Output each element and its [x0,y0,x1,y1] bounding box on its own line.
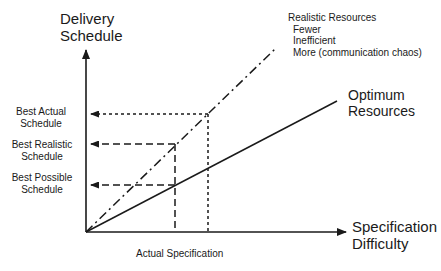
label-line: Best Actual [6,106,76,118]
x-axis-title-line1: Specification [352,218,437,235]
label-line: Schedule [6,151,78,163]
label-line: Schedule [6,118,76,130]
optimum-resources-line [86,101,337,232]
y-axis-title-line2: Schedule [60,27,123,44]
x-axis-title: Specification Difficulty [352,218,437,253]
label-line: Best Realistic [6,139,78,151]
x-axis-title-line2: Difficulty [352,235,437,252]
label-line: Best Possible [6,172,78,184]
actual-specification-label: Actual Specification [136,248,223,260]
realistic-item-inefficient: Inefficient [288,35,422,47]
best-possible-schedule-label: Best Possible Schedule [6,172,78,195]
optimum-line1: Optimum [348,87,415,103]
label-line: Schedule [6,184,78,196]
optimum-line2: Resources [348,103,415,119]
best-actual-schedule-label: Best Actual Schedule [6,106,76,129]
realistic-resources-title: Realistic Resources [288,12,422,24]
optimum-resources-label: Optimum Resources [348,87,415,119]
best-realistic-schedule-label: Best Realistic Schedule [6,139,78,162]
y-axis-title: Delivery Schedule [60,10,123,45]
realistic-item-more: More (communication chaos) [288,47,422,59]
realistic-item-fewer: Fewer [288,24,422,36]
realistic-resources-legend: Realistic Resources Fewer Inefficient Mo… [288,12,422,58]
realistic-resources-line [86,49,275,232]
y-axis-title-line1: Delivery [60,10,123,27]
